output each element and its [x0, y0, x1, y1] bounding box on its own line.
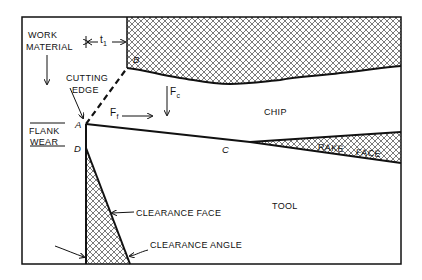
- label-ff: Ff: [110, 108, 119, 122]
- label-rake: RAKE: [318, 142, 344, 154]
- label-clearance-face: CLEARANCE FACE: [136, 208, 221, 218]
- label-work-2: MATERIAL: [26, 42, 73, 52]
- label-point-b: B: [133, 55, 140, 65]
- label-point-d: D: [74, 144, 81, 154]
- label-flank-1: FLANK: [29, 126, 60, 136]
- label-flank-2: WEAR: [30, 137, 58, 147]
- work-material-hatch: [127, 17, 401, 84]
- label-clearance-angle: CLEARANCE ANGLE: [150, 240, 242, 250]
- label-point-c: C: [222, 145, 229, 155]
- label-face: FACE: [356, 147, 381, 159]
- label-point-a: A: [75, 120, 82, 130]
- label-cutting-2: EDGE: [72, 85, 99, 95]
- label-tool: TOOL: [272, 201, 298, 211]
- label-cutting-1: CUTTING: [66, 73, 108, 83]
- label-fc: Fc: [170, 87, 180, 101]
- label-t1: t1: [100, 35, 107, 49]
- label-chip: CHIP: [264, 107, 287, 117]
- label-work-1: WORK: [28, 30, 57, 40]
